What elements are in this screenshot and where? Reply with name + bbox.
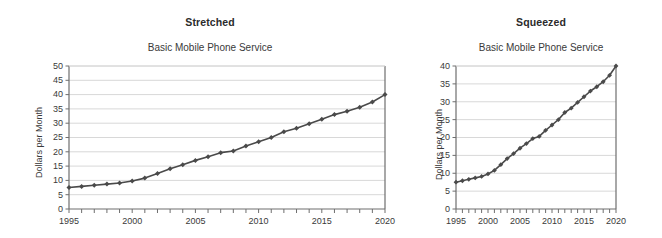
data-point-2003	[168, 166, 173, 171]
y-tick-label-15: 15	[53, 161, 63, 171]
data-point-2017	[345, 109, 350, 114]
data-point-1997	[466, 177, 471, 182]
data-point-2015	[319, 117, 324, 122]
x-tick-label-2000: 2000	[122, 216, 142, 226]
data-point-2006	[206, 154, 211, 159]
x-tick-label-2005: 2005	[185, 216, 205, 226]
data-point-2012	[281, 129, 286, 134]
x-tick-label-2015: 2015	[574, 216, 594, 226]
x-tick-label-2020: 2020	[375, 216, 395, 226]
y-tick-label-5: 5	[445, 186, 450, 196]
data-point-2005	[193, 158, 198, 163]
y-tick-label-50: 50	[53, 61, 63, 71]
x-tick-label-2020: 2020	[606, 216, 626, 226]
data-point-1999	[479, 174, 484, 179]
data-point-1998	[473, 175, 478, 180]
chart-svg-squeezed: 0510152025303540199520002005201020152020	[420, 0, 662, 238]
y-tick-label-35: 35	[440, 79, 450, 89]
x-tick-label-2010: 2010	[542, 216, 562, 226]
y-tick-label-45: 45	[53, 75, 63, 85]
data-point-2010	[256, 139, 261, 144]
data-point-2009	[243, 144, 248, 149]
x-tick-label-1995: 1995	[59, 216, 79, 226]
x-tick-label-1995: 1995	[446, 216, 466, 226]
y-tick-label-20: 20	[440, 132, 450, 142]
data-point-1995	[67, 185, 72, 190]
data-point-2000	[130, 178, 135, 183]
data-point-2011	[269, 135, 274, 140]
y-tick-label-40: 40	[440, 61, 450, 71]
data-point-1997	[92, 183, 97, 188]
x-tick-label-2005: 2005	[510, 216, 530, 226]
data-point-2014	[307, 121, 312, 126]
chart-svg-stretched: 0510152025303540455019952000200520102015…	[0, 0, 420, 238]
y-tick-label-10: 10	[53, 175, 63, 185]
y-tick-label-30: 30	[440, 97, 450, 107]
y-tick-label-15: 15	[440, 150, 450, 160]
y-tick-label-20: 20	[53, 147, 63, 157]
data-point-2016	[332, 112, 337, 117]
y-tick-label-40: 40	[53, 89, 63, 99]
data-point-1996	[79, 184, 84, 189]
data-point-1995	[454, 180, 459, 185]
y-tick-label-25: 25	[53, 132, 63, 142]
y-tick-label-0: 0	[58, 204, 63, 214]
data-point-2007	[218, 150, 223, 155]
data-point-2001	[142, 176, 147, 181]
x-tick-label-2015: 2015	[312, 216, 332, 226]
data-point-2013	[294, 126, 299, 131]
chart-panel-stretched: Stretched Basic Mobile Phone Service Dol…	[0, 0, 420, 238]
y-tick-label-30: 30	[53, 118, 63, 128]
x-tick-label-2000: 2000	[478, 216, 498, 226]
x-tick-label-2010: 2010	[249, 216, 269, 226]
y-tick-label-10: 10	[440, 168, 450, 178]
y-tick-label-35: 35	[53, 104, 63, 114]
data-point-1996	[460, 178, 465, 183]
data-point-2002	[155, 171, 160, 176]
y-tick-label-0: 0	[445, 204, 450, 214]
data-point-1999	[117, 180, 122, 185]
y-tick-label-5: 5	[58, 190, 63, 200]
data-point-1998	[104, 182, 109, 187]
y-tick-label-25: 25	[440, 115, 450, 125]
chart-panel-squeezed: Squeezed Basic Mobile Phone Service Doll…	[420, 0, 662, 238]
data-point-2008	[231, 148, 236, 153]
